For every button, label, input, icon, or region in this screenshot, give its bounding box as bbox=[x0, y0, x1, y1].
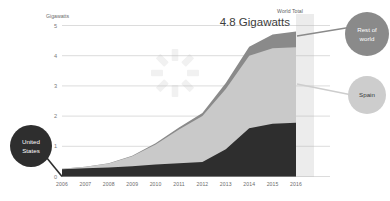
x-tick-2016: 2016 bbox=[290, 181, 302, 187]
x-tick-2009: 2009 bbox=[126, 181, 138, 187]
x-tick-2015: 2015 bbox=[267, 181, 279, 187]
x-tick-2010: 2010 bbox=[150, 181, 162, 187]
callout-united-states-bubble[interactable] bbox=[10, 125, 52, 167]
y-tick-2: 2 bbox=[54, 113, 57, 119]
stacked-area-chart: Gigawatts 5 4 3 2 1 0 2006 2007 2008 200… bbox=[0, 0, 390, 201]
x-tick-2012: 2012 bbox=[196, 181, 208, 187]
callout-united-states-line2: States bbox=[22, 147, 40, 154]
x-tick-2007: 2007 bbox=[79, 181, 91, 187]
world-total-caption: World Total bbox=[277, 8, 303, 14]
callout-rest-of-world-line2: world bbox=[359, 35, 375, 42]
sunburst-watermark bbox=[151, 49, 199, 97]
y-tick-4: 4 bbox=[54, 53, 57, 59]
x-tick-2008: 2008 bbox=[103, 181, 115, 187]
y-tick-5: 5 bbox=[54, 23, 57, 29]
x-tick-2013: 2013 bbox=[220, 181, 232, 187]
world-total-value: 4.8 Gigawatts bbox=[220, 16, 291, 28]
x-tick-2006: 2006 bbox=[56, 181, 68, 187]
y-tick-1: 1 bbox=[54, 143, 57, 149]
x-tick-2011: 2011 bbox=[173, 181, 185, 187]
y-tick-0: 0 bbox=[54, 174, 57, 180]
x-tick-2014: 2014 bbox=[243, 181, 255, 187]
callout-spain[interactable]: Spain bbox=[348, 76, 386, 114]
callout-united-states[interactable]: United States bbox=[10, 125, 52, 167]
y-axis-title: Gigawatts bbox=[46, 13, 69, 19]
highlight-band-2016 bbox=[296, 14, 314, 177]
callout-rest-of-world[interactable]: Rest of world bbox=[345, 12, 389, 56]
y-tick-3: 3 bbox=[54, 83, 57, 89]
callout-spain-line1: Spain bbox=[359, 91, 375, 98]
callout-rest-of-world-bubble[interactable] bbox=[345, 12, 389, 56]
chart-canvas: Gigawatts 5 4 3 2 1 0 2006 2007 2008 200… bbox=[0, 0, 390, 201]
callout-united-states-line1: United bbox=[22, 138, 40, 145]
callout-rest-of-world-line1: Rest of bbox=[357, 26, 377, 33]
